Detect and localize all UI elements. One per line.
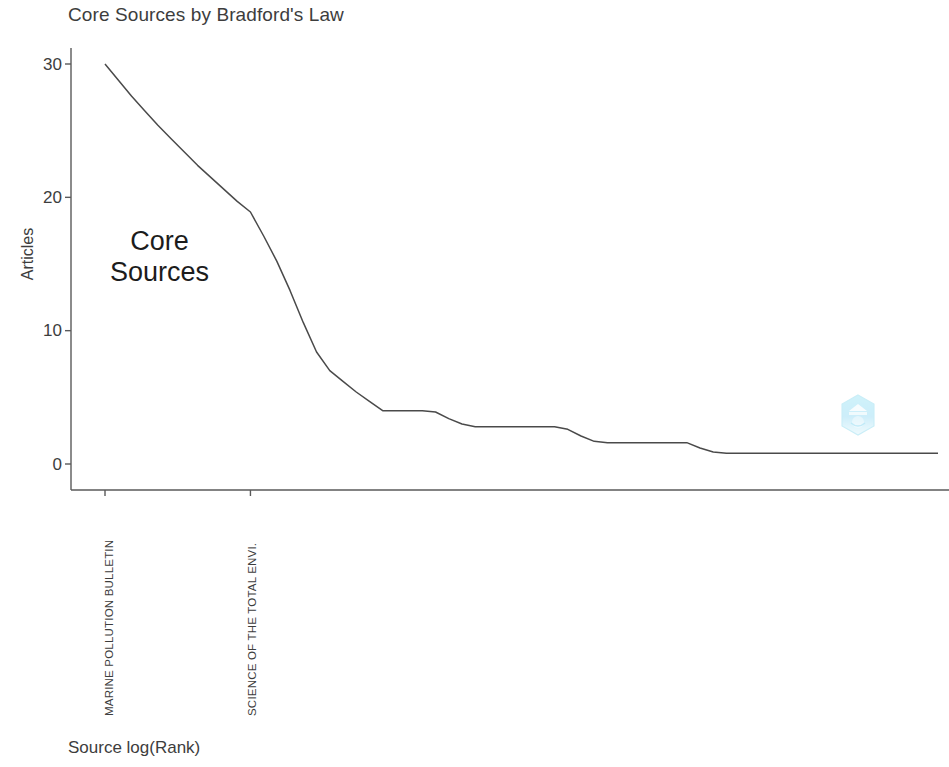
hexagon-logo-icon [838, 393, 878, 437]
plot-area [0, 0, 949, 767]
bradford-distribution-line [105, 64, 938, 453]
bradford-law-chart: Core Sources by Bradford's Law Articles … [0, 0, 949, 767]
hexagon-logo-watermark [838, 393, 878, 437]
y-axis-ticks [65, 64, 71, 464]
x-axis-ticks [105, 490, 250, 496]
axes [71, 48, 949, 490]
